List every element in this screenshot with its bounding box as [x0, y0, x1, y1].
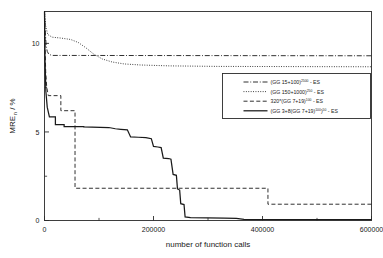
chart-svg: (GG 15+100)2500 - ES(GG 150+1000)250 - E…: [0, 0, 383, 258]
legend-label-1: (GG 150+1000)250 - ES: [271, 89, 325, 95]
y-tick-label: 10: [32, 40, 40, 47]
x-tick-label: 200000: [142, 226, 165, 233]
x-tick-label: 600000: [360, 226, 383, 233]
y-tick-label: 5: [36, 129, 40, 136]
legend-label-0: (GG 15+100)2500 - ES: [271, 79, 321, 85]
y-tick-label: 0: [36, 217, 40, 224]
y-axis-label: MRE n / %: [8, 98, 18, 133]
x-tick-label: 400000: [251, 226, 274, 233]
legend-label-2: 320*(GG 7+19)100 - ES: [271, 98, 324, 104]
legend-layer[interactable]: (GG 15+100)2500 - ES(GG 150+1000)250 - E…: [223, 74, 371, 119]
x-axis-label: number of function calls: [166, 240, 251, 249]
legend-label-3: (GG 3+8(GG 7+19)100)50 - ES: [271, 108, 339, 114]
chart-figure: (GG 15+100)2500 - ES(GG 150+1000)250 - E…: [0, 0, 383, 258]
svg-text:MRE n / %: MRE n / %: [8, 98, 18, 133]
x-tick-label: 0: [43, 226, 47, 233]
